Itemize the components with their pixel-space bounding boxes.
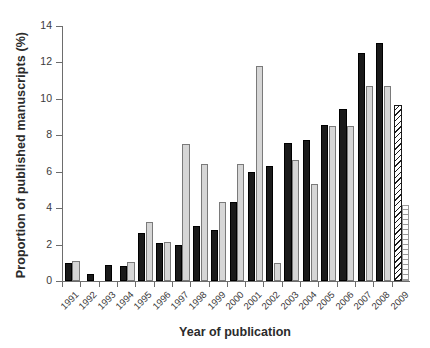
- bar: [146, 222, 153, 281]
- x-tick-mark: [337, 282, 338, 287]
- y-axis-title: Proportion of published manuscripts (%): [8, 10, 34, 300]
- bar: [248, 172, 255, 281]
- x-tick-mark: [300, 282, 301, 287]
- x-tick-mark: [190, 282, 191, 287]
- bars-layer: [62, 26, 410, 281]
- y-tick-label: 2: [26, 238, 52, 250]
- y-tick-label: 8: [26, 128, 52, 140]
- x-tick-mark: [355, 282, 356, 287]
- y-tick-label: 0: [26, 274, 52, 286]
- bar: [120, 266, 127, 281]
- bar-chart: Proportion of published manuscripts (%) …: [0, 0, 430, 348]
- bar: [321, 125, 328, 281]
- bar: [394, 105, 401, 281]
- bar: [402, 205, 409, 282]
- x-tick-mark: [99, 282, 100, 287]
- bar: [175, 245, 182, 281]
- bar: [292, 160, 299, 281]
- x-tick-mark: [209, 282, 210, 287]
- y-tick-label: 10: [26, 92, 52, 104]
- x-tick-mark: [263, 282, 264, 287]
- x-tick-mark: [227, 282, 228, 287]
- y-tick-label: 12: [26, 55, 52, 67]
- bar: [156, 243, 163, 281]
- x-tick-mark: [392, 282, 393, 287]
- x-axis-line: [62, 281, 410, 282]
- bar: [339, 109, 346, 281]
- bar: [347, 126, 354, 281]
- bar: [138, 233, 145, 281]
- x-tick-mark: [154, 282, 155, 287]
- bar: [237, 164, 244, 281]
- bar: [329, 126, 336, 281]
- bar: [201, 164, 208, 281]
- y-tick-label: 4: [26, 201, 52, 213]
- x-tick-mark: [245, 282, 246, 287]
- bar: [164, 242, 171, 281]
- x-tick-mark: [373, 282, 374, 287]
- bar: [274, 263, 281, 281]
- bar: [219, 202, 226, 281]
- bar: [105, 265, 112, 281]
- bar: [230, 202, 237, 281]
- y-tick-label: 6: [26, 165, 52, 177]
- bar: [182, 144, 189, 281]
- x-tick-mark: [80, 282, 81, 287]
- bar: [366, 86, 373, 281]
- bar: [311, 184, 318, 281]
- bar: [87, 274, 94, 281]
- x-axis-title: Year of publication: [60, 325, 410, 339]
- bar: [72, 261, 79, 281]
- x-tick-mark: [62, 282, 63, 287]
- bar: [284, 143, 291, 281]
- x-tick-mark: [117, 282, 118, 287]
- x-tick-mark: [282, 282, 283, 287]
- bar: [211, 230, 218, 281]
- bar: [256, 66, 263, 281]
- bar: [376, 43, 383, 281]
- bar: [384, 86, 391, 281]
- bar: [303, 140, 310, 281]
- bar: [127, 262, 134, 281]
- bar: [65, 263, 72, 281]
- x-tick-mark: [135, 282, 136, 287]
- x-tick-mark: [172, 282, 173, 287]
- bar: [266, 166, 273, 281]
- y-tick-label: 14: [26, 19, 52, 31]
- x-tick-mark: [318, 282, 319, 287]
- bar: [358, 53, 365, 281]
- bar: [193, 226, 200, 281]
